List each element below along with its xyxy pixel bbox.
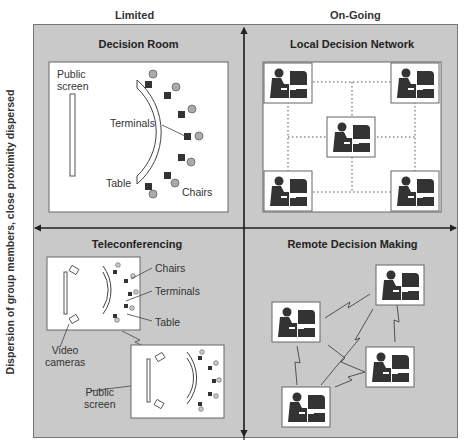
label-chairs: Chairs bbox=[155, 262, 185, 274]
teleconf-room-2 bbox=[131, 345, 224, 418]
workstation-icon bbox=[282, 387, 330, 427]
label-public-screen: Public screen bbox=[84, 386, 116, 410]
label-chairs: Chairs bbox=[182, 186, 212, 198]
label-screen: screen bbox=[57, 80, 89, 92]
workstation-icon bbox=[366, 347, 414, 387]
quadrant-title-remote-decision-making: Remote Decision Making bbox=[260, 238, 445, 250]
label-public: Public bbox=[84, 386, 116, 398]
label-public: Public bbox=[57, 68, 89, 80]
workstation-icon bbox=[264, 171, 312, 211]
label-screen: screen bbox=[84, 398, 116, 410]
label-video-cameras: Video cameras bbox=[45, 344, 85, 368]
workstation-icon bbox=[327, 117, 375, 157]
workstation-icon bbox=[264, 63, 312, 103]
public-screen bbox=[70, 94, 75, 176]
quadrant-title-local-decision-network: Local Decision Network bbox=[263, 38, 441, 50]
label-public-screen: Public screen bbox=[57, 68, 89, 92]
label-video: Video bbox=[45, 344, 85, 356]
label-table: Table bbox=[106, 177, 131, 189]
workstation-icon bbox=[376, 265, 424, 305]
quadrant-title-teleconferencing: Teleconferencing bbox=[47, 238, 227, 250]
workstation-icon bbox=[391, 171, 439, 211]
workstation-icon bbox=[272, 302, 320, 342]
quadrant-title-decision-room: Decision Room bbox=[49, 38, 228, 50]
label-terminals: Terminals bbox=[155, 285, 200, 297]
label-cameras: cameras bbox=[45, 356, 85, 368]
workstation-icon bbox=[391, 63, 439, 103]
label-table: Table bbox=[155, 316, 180, 328]
label-terminals: Terminals bbox=[110, 117, 155, 129]
teleconf-room-1 bbox=[47, 257, 140, 330]
